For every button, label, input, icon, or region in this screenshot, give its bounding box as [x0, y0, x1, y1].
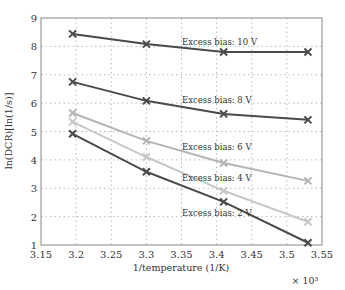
series-annotation: Excess bias: 2 V [182, 208, 252, 218]
series-annotation: Excess bias: 6 V [182, 142, 252, 152]
y-axis-ticks: 123456789 [31, 13, 37, 251]
y-tick-label: 2 [31, 212, 37, 223]
series-annotation: Excess bias: 8 V [182, 95, 252, 105]
x-tick-label: 3.2 [68, 249, 84, 260]
y-tick-label: 5 [31, 127, 37, 138]
y-tick-label: 6 [31, 98, 37, 109]
x-tick-label: 3.35 [170, 249, 192, 260]
x-axis-ticks: 3.153.23.253.33.353.43.453.53.55 [30, 249, 333, 260]
x-axis-multiplier: × 10³ [292, 275, 319, 286]
line-chart: 3.153.23.253.33.353.43.453.53.55 1234567… [0, 0, 345, 290]
x-axis-label: 1/temperature (1/K) [133, 262, 229, 273]
y-tick-label: 3 [31, 183, 37, 194]
x-tick-label: 3.55 [311, 249, 333, 260]
y-tick-label: 9 [31, 13, 37, 24]
series-annotation: Excess bias: 4 V [182, 173, 252, 183]
y-tick-label: 8 [31, 41, 37, 52]
y-tick-label: 4 [31, 155, 37, 166]
x-tick-label: 3.4 [209, 249, 225, 260]
x-tick-label: 3.3 [138, 249, 154, 260]
x-tick-label: 3.25 [100, 249, 122, 260]
y-tick-label: 7 [31, 70, 37, 81]
x-tick-label: 3.45 [241, 249, 263, 260]
y-tick-label: 1 [31, 240, 37, 251]
y-axis-label: ln(DCR)[ln(1/s)] [3, 93, 14, 170]
x-tick-label: 3.5 [279, 249, 295, 260]
x-marker-icon [69, 118, 76, 125]
series-annotation: Excess bias: 10 V [182, 37, 258, 47]
